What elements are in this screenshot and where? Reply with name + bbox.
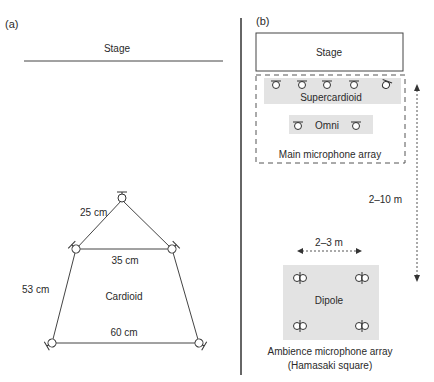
- panel-b-label: (b): [256, 15, 269, 27]
- distance-25cm-label: 25 cm: [80, 207, 107, 218]
- cardioid-label: Cardioid: [105, 291, 142, 302]
- vertical-distance-arrow: [414, 84, 420, 282]
- distance-60cm-label: 60 cm: [110, 327, 137, 338]
- main-array-label: Main microphone array: [279, 149, 381, 160]
- dipole-label: Dipole: [315, 295, 344, 306]
- supercardioid-label: Supercardioid: [300, 92, 362, 103]
- panel-a-label: (a): [5, 18, 18, 30]
- cardioid-mic-icon: [166, 241, 180, 255]
- horizontal-distance-arrow: [297, 248, 362, 254]
- cardioid-mic-icon: [68, 241, 82, 255]
- horizontal-distance-label: 2–3 m: [315, 237, 343, 248]
- arrow-right-icon: [356, 248, 362, 254]
- cardioid-array-lines: [52, 200, 199, 343]
- arrow-down-icon: [414, 275, 420, 282]
- vertical-distance-label: 2–10 m: [369, 194, 402, 205]
- cardioid-mic-icon: [117, 192, 127, 202]
- arrow-left-icon: [297, 248, 303, 254]
- cardioid-mic-icon: [44, 337, 58, 351]
- arrow-up-icon: [414, 84, 420, 91]
- ambience-array-label: Ambience microphone array: [267, 346, 392, 357]
- microphone-diagram: (a) Stage 25 cm 35 cm 53 cm Cardioid: [0, 0, 434, 382]
- distance-35cm-label: 35 cm: [111, 255, 138, 266]
- distance-53cm-label: 53 cm: [22, 284, 49, 295]
- cardioid-mic-icon: [193, 337, 207, 351]
- panel-a-stage-label: Stage: [104, 43, 131, 54]
- hamasaki-square-label: (Hamasaki square): [288, 360, 372, 371]
- panel-b-stage-label: Stage: [316, 47, 343, 58]
- omni-label: Omni: [315, 120, 339, 131]
